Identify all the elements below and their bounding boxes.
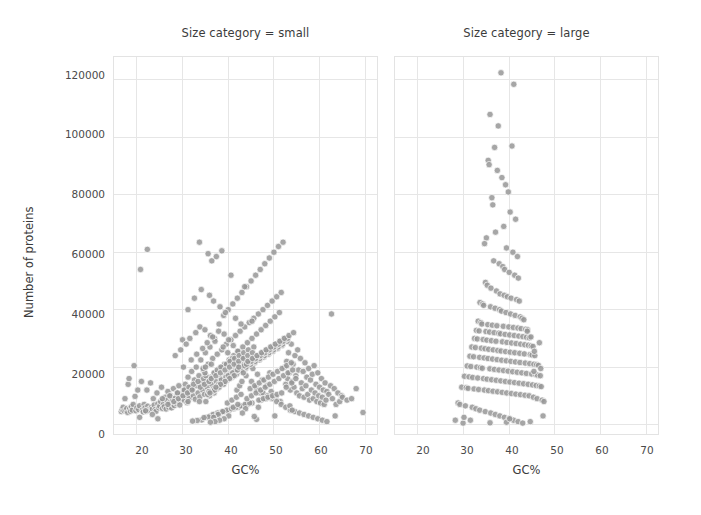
data-point [194,351,200,357]
gridlines-large [395,57,659,435]
data-point [138,378,144,384]
x-tick-label: 30 [460,444,473,456]
plot-canvas-small [114,57,378,435]
data-point [222,309,228,315]
data-point [506,416,512,422]
data-point [311,362,317,368]
data-point [125,381,131,387]
y-tick-label: 100000 [40,128,105,140]
y-tick-label: 80000 [40,188,105,200]
data-point [240,370,246,376]
y-tick-label: 40000 [40,308,105,320]
data-point [465,385,471,391]
data-point [178,347,184,353]
data-point [136,414,142,420]
data-point [521,317,527,323]
data-point [183,341,189,347]
data-point [288,360,294,366]
data-point [514,253,520,259]
data-point [188,357,194,363]
data-point [239,378,245,384]
y-tick-label: 20000 [40,368,105,380]
data-point [479,365,485,371]
data-point [472,344,478,350]
data-point [536,339,542,345]
data-point [507,209,513,215]
data-point [481,240,487,246]
data-point [137,266,143,272]
data-point [302,360,308,366]
data-point [228,272,234,278]
data-point [230,342,236,348]
x-tick-label: 50 [269,444,282,456]
data-point [491,144,497,150]
data-point [230,301,236,307]
data-point [196,239,202,245]
data-point [193,329,199,335]
x-tick-label: 50 [550,444,563,456]
data-point [204,339,210,345]
data-point [241,284,247,290]
data-point [238,321,244,327]
data-point [252,272,258,278]
data-point [474,336,480,342]
data-point [278,390,284,396]
data-point [191,295,197,301]
data-point [185,306,191,312]
data-point [538,365,544,371]
data-point [180,364,186,370]
data-point [185,374,191,380]
data-point [493,338,499,344]
data-point [489,194,495,200]
data-point [348,395,354,401]
data-point [494,167,500,173]
x-tick-label: 30 [179,444,192,456]
data-point [158,384,164,390]
data-point [315,370,321,376]
data-point [516,298,522,304]
data-point [198,357,204,363]
data-point [155,416,161,422]
data-point [144,387,150,393]
data-point [276,309,282,315]
data-point [225,337,231,343]
data-point [165,401,171,407]
data-point [452,417,458,423]
data-point [202,364,208,370]
data-point [187,335,193,341]
data-point [217,304,223,310]
data-point [328,311,334,317]
data-point [135,387,141,393]
data-point [499,174,505,180]
data-point [213,253,219,259]
x-tick-label: 20 [416,444,429,456]
data-point [209,334,215,340]
data-point [239,410,245,416]
data-point [206,292,212,298]
data-point [262,261,268,267]
data-point [248,278,254,284]
data-point [210,298,216,304]
data-point [492,229,498,235]
panel-title-small: Size category = small [113,26,378,40]
plot-canvas-large [395,57,659,435]
data-point [271,249,277,255]
scatter-figure: Number of proteins 120000 100000 80000 6… [0,0,701,515]
data-point [185,398,191,404]
data-point [538,383,544,389]
data-point [213,384,219,390]
panel-title-large: Size category = large [394,26,659,40]
data-point [486,161,492,167]
data-point [216,321,222,327]
y-tick-label: 0 [40,428,105,440]
data-point [476,328,482,334]
data-point [205,250,211,256]
data-point [528,334,534,340]
data-point [501,223,507,229]
data-point [289,367,295,373]
data-point [479,321,485,327]
data-point [220,344,226,350]
data-point [494,323,500,329]
data-point [149,411,155,417]
data-point [480,302,486,308]
